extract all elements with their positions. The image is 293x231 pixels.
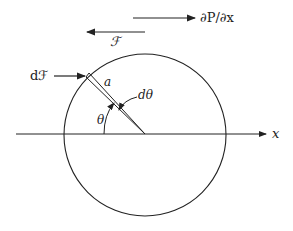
dtheta-label: dθ bbox=[138, 89, 153, 101]
cylinder-circle bbox=[64, 54, 226, 216]
total-force-label: ℱ bbox=[110, 35, 120, 48]
diagram: ∂P/∂x ℱ dℱ a dθ θ x bbox=[0, 0, 293, 231]
theta-arc bbox=[104, 103, 114, 134]
radius-label: a bbox=[104, 76, 111, 88]
x-axis-label: x bbox=[272, 127, 279, 140]
pressure-gradient-label: ∂P/∂x bbox=[200, 11, 234, 24]
radius-line-1 bbox=[86, 77, 145, 134]
theta-label: θ bbox=[97, 114, 104, 126]
diagram-graphic bbox=[0, 0, 293, 231]
force-element-label: dℱ bbox=[30, 69, 48, 82]
